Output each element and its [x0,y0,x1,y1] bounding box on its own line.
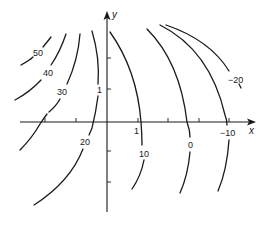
y-axis-label: y [111,9,118,20]
contour-50 [43,37,51,47]
x-tick-label: 1 [134,126,139,136]
contour-30 [67,34,80,84]
contour-30 [49,99,60,112]
contour-neg10 [218,140,229,191]
contour-label-50: 50 [33,48,43,58]
contour-10 [132,160,144,189]
contour-20 [92,31,98,84]
x-axis-label: x [248,125,255,136]
contour-0 [147,29,190,137]
contour-40 [51,34,66,65]
contour-curves [15,25,241,205]
contour-20 [34,149,83,205]
contour-30 [20,114,47,150]
contour-label-20: 20 [80,137,90,147]
axes: x y 1 1 [20,9,256,212]
contour-0 [180,152,190,193]
contour-label-40: 40 [43,68,53,78]
contour-label-10: 10 [139,149,149,159]
contour-plot: x y 1 1 50 40 30 20 [0,0,272,226]
contour-label-neg10: −10 [220,128,235,138]
contour-label-0: 0 [188,140,193,150]
contour-label-30: 30 [57,87,67,97]
y-tick-label: 1 [97,85,102,95]
contour-neg10 [160,25,227,125]
contour-neg20 [166,25,229,71]
contour-40 [15,80,41,100]
contour-label-neg20: −20 [228,75,243,85]
contour-20 [89,96,98,135]
contour-50 [21,57,33,65]
